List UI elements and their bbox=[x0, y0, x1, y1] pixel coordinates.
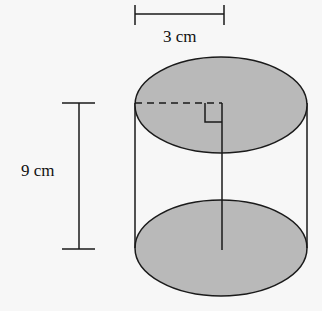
bottom-base bbox=[135, 200, 307, 296]
radius-dimension bbox=[135, 5, 224, 25]
height-label: 9 cm bbox=[21, 161, 55, 180]
cylinder-diagram: 3 cm 9 cm bbox=[0, 0, 322, 311]
radius-label: 3 cm bbox=[163, 27, 197, 46]
height-dimension bbox=[62, 103, 95, 249]
top-base bbox=[135, 57, 307, 153]
